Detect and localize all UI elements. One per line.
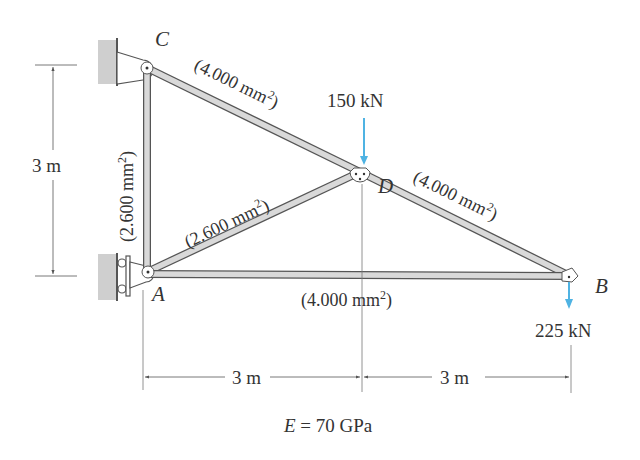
load-arrow-D (360, 118, 368, 165)
node-label-A: A (150, 282, 165, 306)
dimension-label-vertical: 3 m (32, 155, 61, 176)
joint-A (142, 266, 154, 278)
area-label-CD: (4.000 mm2) (191, 53, 283, 114)
joint-C (141, 62, 153, 74)
material-modulus: E = 70 GPa (283, 415, 373, 436)
wall-support-C (98, 40, 116, 84)
load-arrow-B (565, 282, 573, 309)
load-label-B: 225 kN (535, 320, 592, 341)
node-label-D: D (377, 174, 393, 198)
dimension-label-left: 3 m (232, 367, 261, 388)
area-label-AC: (2.600 mm2) (115, 151, 138, 242)
truss-diagram: C A D B (4.000 mm2) (4.000 mm2) (2.600 m… (0, 0, 640, 460)
load-label-D: 150 kN (327, 90, 384, 111)
dimension-label-right: 3 m (440, 367, 469, 388)
member-AB (147, 274, 570, 276)
wall-support-A (98, 254, 116, 300)
area-label-AB: (4.000 mm2) (301, 288, 392, 311)
node-label-C: C (155, 27, 170, 51)
node-label-B: B (595, 274, 608, 298)
member-AD (147, 172, 360, 272)
